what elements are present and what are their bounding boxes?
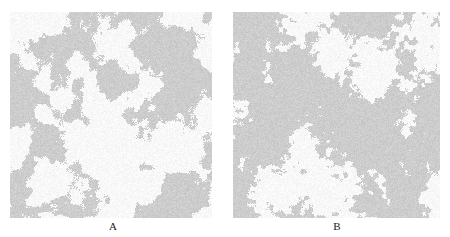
panel-label-b: B (322, 219, 352, 233)
texture-panel-a (10, 12, 212, 218)
panel-label-a: A (98, 219, 128, 233)
texture-image-a (10, 12, 212, 218)
texture-image-b (233, 12, 440, 218)
texture-panel-b (233, 12, 440, 218)
